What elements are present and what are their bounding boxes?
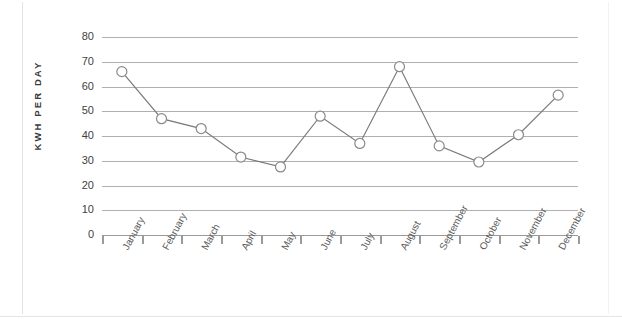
y-axis-tick-label: 20 [54,180,94,191]
x-axis-tick [459,236,461,244]
data-series-kwh-per-day [102,37,578,235]
data-point-marker [157,114,167,124]
y-axis-tick-label: 0 [54,229,94,240]
x-axis-tick [221,236,223,244]
x-axis-tick [419,236,421,244]
y-axis-tick-label: 80 [54,31,94,42]
x-axis-tick [300,236,302,244]
data-point-marker [355,138,365,148]
x-axis-tick [380,236,382,244]
data-point-marker [553,90,563,100]
x-axis-tick [340,236,342,244]
data-point-marker [276,162,286,172]
data-point-marker [395,62,405,72]
data-point-marker [196,124,206,134]
y-axis-tick-label: 50 [54,105,94,116]
series-line [122,67,558,167]
line-chart: KWH PER DAY 80706050403020100 JanuaryFeb… [0,0,622,319]
y-axis-tick-label: 30 [54,155,94,166]
x-axis-tick [102,236,104,244]
data-point-marker [315,111,325,121]
data-point-marker [474,157,484,167]
x-axis-tick [499,236,501,244]
data-point-marker [434,141,444,151]
x-axis-tick [142,236,144,244]
y-axis-tick-labels: 80706050403020100 [52,37,94,235]
x-axis-tick-labels: JanuaryFebruaryMarchAprilMayJuneJulyAugu… [102,247,578,317]
data-point-marker [236,152,246,162]
page-border-left [22,2,23,314]
y-axis-title: KWH PER DAY [32,26,43,186]
x-axis-tick [261,236,263,244]
y-axis-tick-label: 60 [54,81,94,92]
y-axis-tick-label: 10 [54,204,94,215]
y-axis-tick-label: 70 [54,56,94,67]
x-axis-tick [578,236,580,244]
page-border-right [608,2,609,314]
y-axis-tick-label: 40 [54,130,94,141]
data-point-marker [514,130,524,140]
x-axis-tick [538,236,540,244]
data-point-marker [117,67,127,77]
x-axis-tick [181,236,183,244]
